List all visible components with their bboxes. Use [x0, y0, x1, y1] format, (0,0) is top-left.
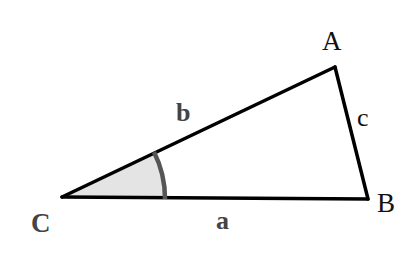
side-a-edge — [62, 197, 368, 199]
triangle-diagram: A B C b a c — [0, 0, 419, 256]
side-label-b: b — [176, 98, 190, 127]
vertex-label-c: C — [31, 208, 51, 238]
side-label-c: c — [357, 103, 369, 132]
vertex-label-a: A — [322, 26, 342, 56]
side-b-edge — [62, 67, 335, 197]
side-c-edge — [335, 67, 368, 199]
vertex-label-b: B — [377, 188, 395, 218]
side-label-a: a — [216, 206, 229, 235]
